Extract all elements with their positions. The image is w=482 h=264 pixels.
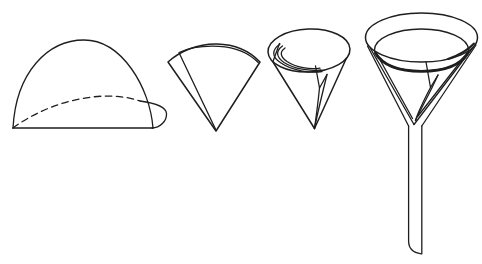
filter-paper-folding-diagram (0, 0, 482, 264)
funnel-left-wall-inner (371, 49, 415, 125)
cone-seam-right (315, 75, 328, 129)
cone-paper-layer-arc-3 (281, 48, 320, 69)
funnel-right-wall-inner (414, 48, 473, 125)
figure-filter-paper-opened-cone (267, 28, 350, 129)
figure-filter-paper-folded-in-half (13, 40, 167, 128)
funnel-rim-ellipse (366, 13, 478, 62)
quarter-cone-inner-fold-edge (179, 46, 258, 129)
figure-filter-paper-quarter-cone (168, 44, 260, 131)
diagram-canvas (0, 0, 482, 264)
paper-cone-right-edge (418, 57, 465, 117)
figure-filter-paper-in-funnel (366, 13, 478, 254)
funnel-stem-left-edge (409, 126, 422, 254)
paper-flap-in-funnel (426, 62, 438, 88)
cone-rim-ellipse (267, 28, 350, 74)
half-fold-back-edge-dashed (13, 96, 140, 128)
funnel-left-wall-outer (368, 46, 409, 126)
